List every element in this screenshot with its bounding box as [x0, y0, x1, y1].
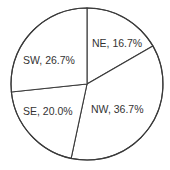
pie-chart: NE, 16.7% NW, 36.7% SE, 20.0% SW, 26.7% [0, 0, 170, 170]
slice-label-nw: NW, 36.7% [91, 103, 144, 115]
pie-slices [11, 8, 163, 160]
slice-label-ne: NE, 16.7% [92, 37, 142, 49]
pie-slice-sw [11, 8, 87, 92]
slice-label-se: SE, 20.0% [23, 105, 73, 117]
slice-label-sw: SW, 26.7% [23, 54, 75, 66]
